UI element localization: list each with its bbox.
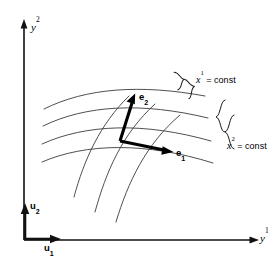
u1-vector-label: u1 — [44, 243, 54, 255]
u2-vector-label: u2 — [30, 201, 40, 213]
e2-vector-label: e2 — [139, 92, 148, 104]
x1-const-brace — [174, 69, 197, 101]
horizontal-axis-label: y1 — [260, 231, 269, 244]
e1-vector-arrowhead — [161, 146, 173, 155]
u1-vector-arrowhead — [50, 235, 61, 244]
vertical-axis-arrowhead — [21, 19, 28, 29]
figure-canvas — [0, 0, 280, 260]
vertical-axis-label: y2 — [31, 20, 40, 33]
x2-const-curve-1 — [44, 89, 205, 109]
curvilinear-coordinates-figure: y2 y1 u2 u1 e2 e1 x1 = const x2 = const — [0, 0, 280, 260]
x1-const-label: x1 = const — [196, 74, 236, 85]
x2-const-curve-4 — [42, 148, 213, 164]
horizontal-axis-arrowhead — [250, 237, 260, 244]
e1-vector-label: e1 — [176, 148, 185, 160]
x2-const-curve-family — [42, 89, 213, 163]
cartesian-basis-group — [21, 203, 61, 243]
e2-vector-shaft — [120, 103, 132, 141]
x2-const-label: x2 = const — [227, 140, 267, 151]
u2-vector-arrowhead — [21, 203, 30, 214]
e2-vector-arrowhead — [127, 94, 136, 105]
x1-const-curve-3 — [116, 115, 180, 222]
